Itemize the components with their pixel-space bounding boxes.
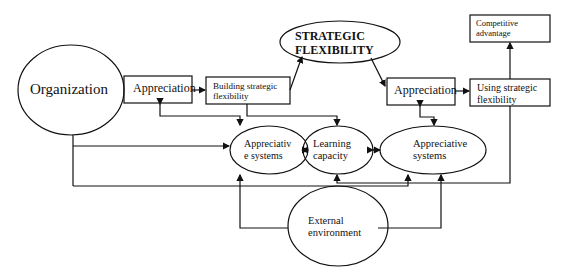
competitive-label: Competitiveadvantage <box>476 19 518 39</box>
appreciation-left-label: Appreciation <box>133 82 196 96</box>
appsys-right-label: Appreciativesystems <box>413 138 467 162</box>
building-label: Building strategicflexibility <box>213 81 277 102</box>
appreciation-right-label: Appreciation <box>394 84 457 98</box>
using-label: Using strategicflexibility <box>477 82 537 105</box>
organization-label: Organization <box>30 81 108 98</box>
learning-label: Learningcapacity <box>313 138 351 162</box>
strategic-flexibility-label: STRATEGICFLEXIBILITY <box>295 30 374 58</box>
external-label: Externalenvironment <box>308 215 361 239</box>
appsys-left-label: Appreciative systems <box>244 138 291 161</box>
